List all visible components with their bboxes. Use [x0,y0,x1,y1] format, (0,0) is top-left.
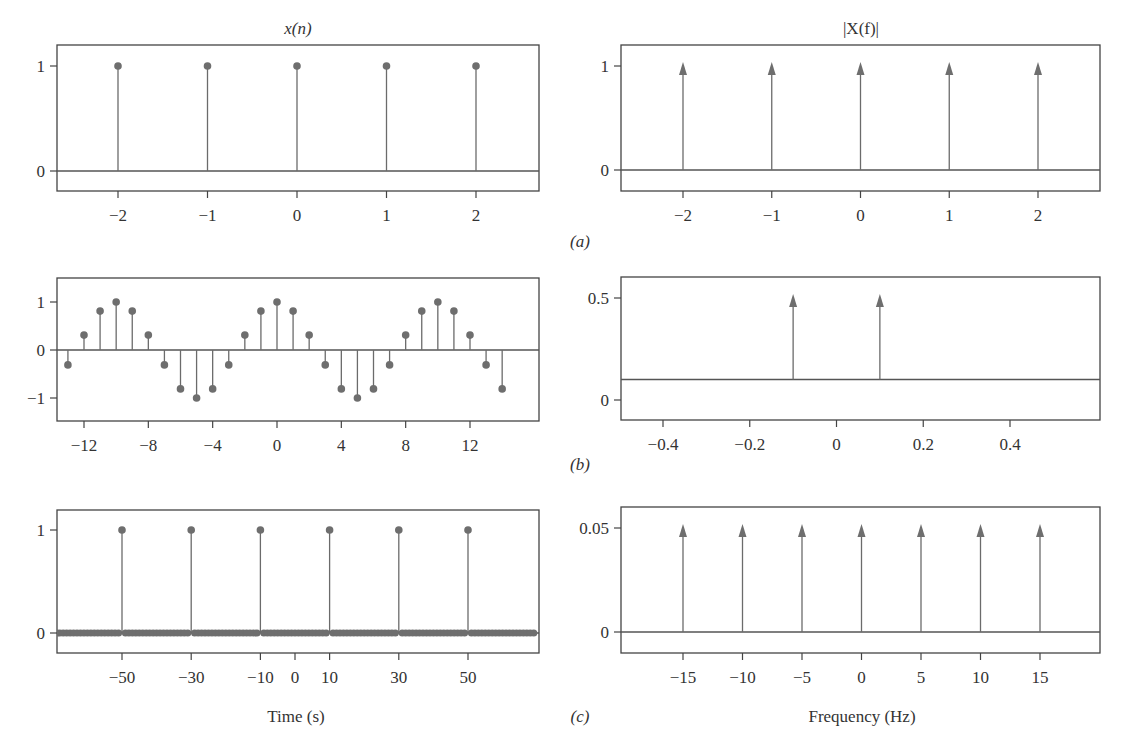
x-tick-label: −5 [793,668,811,687]
stem-marker [204,62,212,70]
stem-marker [434,298,442,306]
figure: x(n) 01−2−1012 |X(f)| 01−2−1012 (a) −101… [0,0,1127,750]
x-tick-label: −30 [178,668,205,687]
x-tick-label: 0 [293,206,302,225]
x-tick-label: 0.2 [913,435,934,454]
x-tick-label: 0 [273,436,282,455]
x-tick-label: 0 [856,206,865,225]
impulse-arrow-icon [739,524,747,537]
impulse-arrow-icon [858,524,866,537]
left-xlabel: Time (s) [267,707,324,726]
panel-a-right: |X(f)| 01−2−1012 [601,19,1101,225]
x-tick-label: −10 [247,668,274,687]
stem-marker [466,331,474,339]
data-series [114,62,480,171]
x-tick-label: 4 [337,436,346,455]
impulse-arrow-icon [917,524,925,537]
y-tick-label: 0 [37,624,46,643]
x-tick-label: −8 [139,436,157,455]
x-tick-label: 2 [472,206,481,225]
x-tick-label: −1 [198,206,216,225]
left-title: x(n) [283,19,312,38]
x-tick-label: 15 [1032,668,1049,687]
panel-c-left: 01−50−30−100103050 [37,510,540,687]
y-tick-label: 0 [601,391,610,410]
impulse-arrow-icon [789,294,797,307]
caption-a: (a) [570,232,590,251]
x-tick-label: −12 [71,436,98,455]
x-tick-label: 0.4 [999,435,1021,454]
stem-marker [383,62,391,70]
stem-marker [128,307,136,315]
impulse-arrow-icon [768,62,776,75]
y-tick-label: 1 [37,57,46,76]
stem-marker [402,331,410,339]
data-series [48,298,506,402]
stem-marker [395,526,403,534]
data-series [789,294,884,380]
x-tick-label: 12 [462,436,479,455]
y-tick-label: 1 [37,293,46,312]
caption-c: (c) [571,707,590,726]
y-tick-label: 0.5 [588,289,609,308]
x-tick-label: 0 [857,668,866,687]
stem-marker [241,331,249,339]
stem-marker [80,331,88,339]
y-tick-label: 0 [601,623,610,642]
x-tick-label: 50 [460,668,477,687]
impulse-arrow-icon [1034,62,1042,75]
stem-marker [193,394,201,402]
stem-marker [418,307,426,315]
panel-a-left: x(n) 01−2−1012 [37,19,540,225]
x-tick-label: −10 [729,668,756,687]
x-tick-label: 0 [832,435,841,454]
y-tick-label: 0 [37,341,46,360]
x-tick-label: 10 [972,668,989,687]
impulse-arrow-icon [679,524,687,537]
stem-marker [273,298,281,306]
stem-marker [321,361,329,369]
impulse-arrow-icon [977,524,985,537]
x-tick-label: 5 [917,668,926,687]
stem-marker [118,526,126,534]
stem-marker [225,361,233,369]
stem-marker [112,298,120,306]
stem-marker [472,62,480,70]
right-title: |X(f)| [843,19,879,38]
impulse-arrow-icon [945,62,953,75]
stem-marker [64,361,72,369]
impulse-arrow-icon [798,524,806,537]
x-tick-label: 1 [382,206,391,225]
y-tick-label: 1 [601,57,610,76]
y-tick-label: 0 [601,161,610,180]
x-tick-label: 2 [1034,206,1043,225]
x-tick-label: 8 [401,436,410,455]
stem-marker [338,385,346,393]
impulse-arrow-icon [679,62,687,75]
data-series [53,526,538,636]
stem-marker [293,62,301,70]
x-tick-label: −2 [674,206,692,225]
stem-marker [450,307,458,315]
stem-marker [257,526,265,534]
data-series [679,62,1042,170]
y-tick-label: −1 [27,389,45,408]
right-xlabel: Frequency (Hz) [808,707,915,726]
stem-marker [48,385,56,393]
stem-marker [209,385,217,393]
stem-marker [114,62,122,70]
x-tick-label: 10 [321,668,338,687]
impulse-arrow-icon [1036,524,1044,537]
stem-marker [498,385,506,393]
stem-marker [145,331,153,339]
x-tick-label: 30 [390,668,407,687]
stem-marker [161,361,169,369]
y-tick-label: 1 [37,521,46,540]
x-tick-label: 0 [291,668,300,687]
stem-marker [354,394,362,402]
x-tick-label: −4 [204,436,223,455]
y-tick-label: 0.05 [579,519,609,538]
stem-marker [370,385,378,393]
x-tick-label: −50 [109,668,136,687]
stem-marker [386,361,394,369]
